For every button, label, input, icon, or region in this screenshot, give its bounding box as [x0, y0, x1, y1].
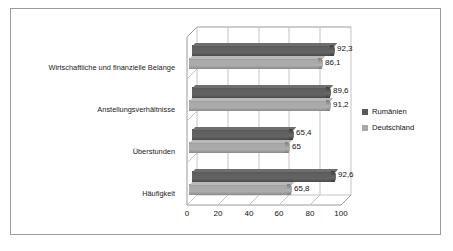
category-label-anstellungsverhaeltnisse: Anstellungsverhältnisse: [97, 105, 175, 114]
category-label-haeufigkeit: Häufigkeit: [142, 189, 175, 198]
xtick-40: 40: [237, 209, 261, 218]
value-label-89-6: 89,6: [333, 86, 349, 95]
value-label-92-3: 92,3: [337, 44, 353, 53]
xtick-100: 100: [329, 209, 353, 218]
legend-item-rumaenien[interactable]: Rumänien: [362, 107, 440, 116]
plot-area: Wirtschaftliche und finanzielle Belange …: [11, 9, 442, 236]
bar-deutschland-ueberstunden[interactable]: [189, 142, 289, 153]
legend-item-deutschland[interactable]: Deutschland: [362, 123, 440, 132]
bar-deutschland-anstellungsverhaeltnisse[interactable]: [189, 100, 330, 111]
bar-deutschland-wirtschaftliche[interactable]: [189, 58, 322, 69]
category-label-ueberstunden: Überstunden: [133, 147, 175, 156]
bar-rumaenien-anstellungsverhaeltnisse[interactable]: [192, 87, 330, 98]
category-label-wirtschaftliche: Wirtschaftliche und finanzielle Belange: [48, 63, 175, 72]
value-label-65: 65: [292, 142, 301, 151]
bar-deutschland-haeufigkeit[interactable]: [189, 184, 291, 195]
bar-rumaenien-ueberstunden[interactable]: [192, 129, 293, 140]
legend-swatch-icon-rumaenien: [362, 109, 368, 115]
xtick-0: 0: [175, 209, 199, 218]
value-label-65-8: 65,8: [294, 184, 310, 193]
chart-frame: Wirtschaftliche und finanzielle Belange …: [10, 8, 441, 235]
bar-rumaenien-wirtschaftliche[interactable]: [192, 45, 334, 56]
value-label-65-4: 65,4: [296, 128, 312, 137]
value-label-91-2: 91,2: [333, 100, 349, 109]
legend-label-deutschland: Deutschland: [372, 123, 414, 132]
xtick-60: 60: [267, 209, 291, 218]
xtick-20: 20: [206, 209, 230, 218]
legend-swatch-icon-deutschland: [362, 125, 368, 131]
value-label-92-6: 92,6: [338, 170, 354, 179]
legend-label-rumaenien: Rumänien: [372, 107, 407, 116]
chart-legend: Rumänien Deutschland: [362, 107, 440, 139]
bar-rumaenien-haeufigkeit[interactable]: [192, 171, 335, 182]
category-label-column: Wirtschaftliche und finanzielle Belange …: [15, 9, 175, 236]
xtick-80: 80: [298, 209, 322, 218]
value-label-86-1: 86,1: [325, 58, 341, 67]
